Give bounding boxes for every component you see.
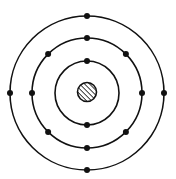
electron — [123, 51, 129, 57]
electron — [45, 51, 51, 57]
electron — [84, 167, 90, 173]
electron — [45, 129, 51, 135]
electron — [84, 13, 90, 19]
electron — [139, 90, 145, 96]
electron — [161, 90, 167, 96]
electron — [84, 35, 90, 41]
electron — [84, 145, 90, 151]
electron — [84, 58, 90, 64]
electron — [7, 90, 13, 96]
electron — [123, 129, 129, 135]
atom-diagram — [0, 0, 176, 179]
electron — [84, 122, 90, 128]
nucleus — [78, 83, 97, 102]
electron — [29, 90, 35, 96]
